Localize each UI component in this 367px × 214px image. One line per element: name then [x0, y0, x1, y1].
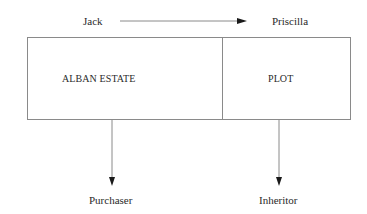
down-arrow-icon: [276, 120, 282, 186]
right-arrow-icon: [120, 18, 247, 24]
purchaser-label: Purchaser: [89, 195, 132, 206]
down-arrow-icon: [109, 120, 115, 186]
arrows-layer: [0, 0, 367, 214]
diagram-canvas: Jack Priscilla ALBAN ESTATE PLOT Purchas…: [0, 0, 367, 214]
inheritor-label: Inheritor: [259, 195, 297, 206]
